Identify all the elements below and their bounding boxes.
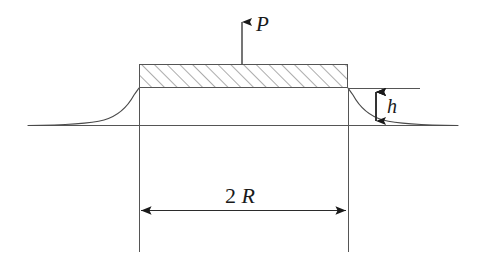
force-label-P: P [255, 12, 269, 36]
diameter-coefficient: 2 [225, 183, 236, 208]
figure-root: P h 2 R [0, 0, 479, 269]
diameter-label-2R: 2 R [225, 183, 256, 208]
meniscus-curve-right [348, 88, 458, 126]
hatched-block-fill [139, 64, 348, 88]
diameter-symbol: R [241, 183, 256, 208]
height-label-h: h [387, 95, 397, 117]
sessile-drop-diagram: P h 2 R [0, 0, 479, 269]
meniscus-curve-left [28, 88, 139, 126]
